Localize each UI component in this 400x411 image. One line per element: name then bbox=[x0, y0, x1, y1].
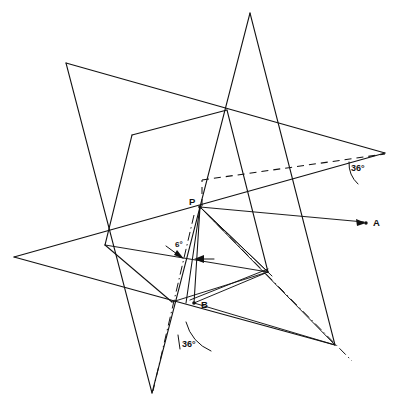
inner-edge-1 bbox=[132, 110, 227, 135]
point-p-dot bbox=[198, 205, 202, 209]
angle-marker-bottom: 36° bbox=[178, 322, 211, 351]
angle-tick-bottom bbox=[178, 335, 180, 349]
wedge-arrowhead-right bbox=[194, 255, 204, 263]
dashdot-axis-lines bbox=[153, 212, 352, 391]
b-ray-bundle bbox=[190, 269, 335, 345]
angle-label-right: 36° bbox=[351, 163, 365, 173]
angle-label-wedge: 6° bbox=[175, 240, 183, 249]
star-chord-6 bbox=[14, 153, 385, 257]
ray-p-to-a bbox=[200, 207, 364, 222]
inner-edge-3 bbox=[105, 135, 132, 245]
dashed-reference-line bbox=[202, 154, 385, 206]
point-b-dot bbox=[192, 301, 196, 305]
point-label-b: B bbox=[201, 299, 208, 310]
outer-star-lines bbox=[14, 13, 385, 393]
point-label-p: P bbox=[189, 196, 196, 207]
pentagram-diagram: 36° 36° 6° P A B bbox=[0, 0, 400, 411]
angle-label-bottom: 36° bbox=[182, 339, 196, 349]
point-label-a: A bbox=[373, 217, 380, 228]
inner-polygon-lines bbox=[105, 110, 268, 302]
wedge-edge-right bbox=[194, 207, 200, 303]
angle-marker-right: 36° bbox=[349, 162, 365, 184]
inner-edge-4 bbox=[105, 245, 172, 302]
star-chord-2 bbox=[152, 13, 250, 393]
p-ray-bundle bbox=[186, 205, 368, 345]
inner-edge-2 bbox=[227, 110, 268, 272]
point-a-dot bbox=[364, 221, 367, 224]
geometric-figure-canvas: 36° 36° 6° P A B bbox=[0, 0, 400, 411]
ray-b-to-node-2 bbox=[190, 269, 268, 300]
